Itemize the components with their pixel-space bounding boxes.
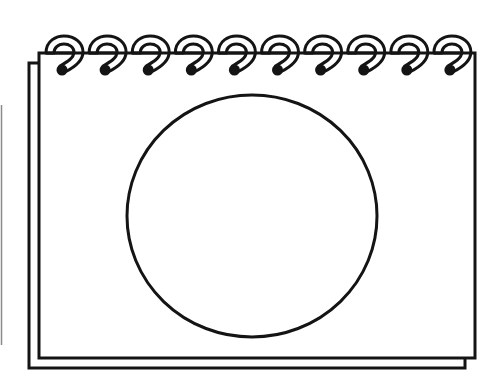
punch-hole-icon — [401, 65, 412, 76]
punch-hole-icon — [229, 65, 240, 76]
front-page — [39, 53, 475, 358]
punch-hole-icon — [143, 65, 154, 76]
notepad-illustration — [0, 0, 495, 379]
punch-hole-icon — [358, 65, 369, 76]
punch-hole-icon — [444, 65, 455, 76]
punch-hole-icon — [186, 65, 197, 76]
punch-hole-icon — [57, 65, 68, 76]
punch-hole-icon — [315, 65, 326, 76]
punch-hole-icon — [100, 65, 111, 76]
punch-hole-icon — [272, 65, 283, 76]
